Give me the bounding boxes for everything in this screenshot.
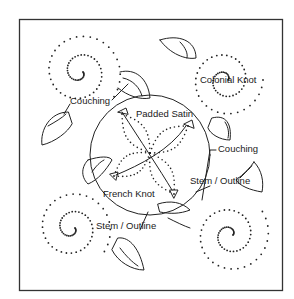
leaf-bottom-left	[83, 157, 112, 184]
center-petals-dotted	[113, 113, 189, 195]
label-couching-2: Couching	[218, 143, 258, 154]
spiral-bottom-right	[200, 209, 270, 270]
label-french-knot: French Knot	[103, 188, 155, 199]
label-padded-satin: Padded Satin	[136, 108, 193, 119]
leaf-left-mid	[42, 112, 72, 145]
spiral-top-left	[48, 36, 121, 100]
leaf-top-left-center	[118, 71, 150, 98]
label-stem-outline-1: Stem / Outline	[190, 175, 250, 186]
leaf-bottom-center	[112, 238, 144, 270]
frame-border	[20, 20, 283, 291]
leaf-top-right	[160, 38, 196, 59]
center-stem-a	[122, 112, 172, 190]
petal-tip-1	[118, 108, 128, 114]
leader-couching-1	[112, 84, 128, 100]
center-stem-b	[116, 126, 186, 175]
label-stem-outline-2: Stem / Outline	[96, 220, 156, 231]
leaf-bottom-right-stem	[158, 202, 190, 228]
label-couching-1: Couching	[70, 95, 110, 106]
leaf-right-mid	[208, 117, 230, 140]
embroidery-diagram: Couching Colonial Knot Padded Satin Couc…	[0, 0, 294, 299]
label-colonial-knot: Colonial Knot	[200, 74, 257, 85]
